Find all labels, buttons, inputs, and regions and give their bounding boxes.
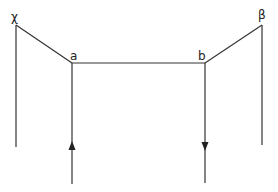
label-a: a (70, 50, 77, 62)
label-chi: χ (11, 11, 18, 23)
label-b: b (198, 50, 206, 62)
b-to-beta-line (205, 25, 262, 63)
down-arrow-icon (202, 142, 209, 151)
diagram-canvas (0, 0, 278, 192)
label-beta: β (258, 9, 266, 21)
up-arrow-icon (69, 141, 76, 150)
chi-to-a-line (16, 25, 72, 63)
